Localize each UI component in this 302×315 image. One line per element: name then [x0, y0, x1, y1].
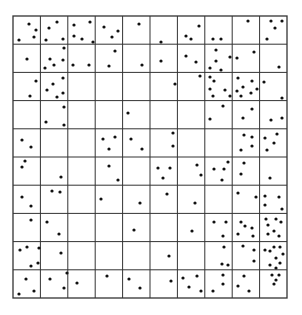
point-dot [239, 94, 242, 97]
point-dot [272, 141, 275, 144]
point-dot [241, 244, 244, 247]
point-dot [43, 66, 46, 69]
point-dot [252, 248, 255, 251]
point-dot [236, 76, 239, 79]
point-dot [132, 228, 135, 231]
point-dot [187, 285, 190, 288]
point-dot [252, 50, 255, 53]
point-dot [269, 118, 272, 121]
point-dot [23, 159, 26, 162]
point-dot [45, 88, 48, 91]
point-dot [58, 190, 61, 193]
point-dot [140, 147, 143, 150]
point-dot [249, 91, 252, 94]
point-dot [247, 289, 250, 292]
point-dot [116, 29, 119, 32]
point-dot [18, 248, 21, 251]
point-dot [272, 229, 275, 232]
point-dot [59, 251, 62, 254]
point-dot [17, 292, 20, 295]
point-dot [91, 40, 94, 43]
point-dot [265, 148, 268, 151]
point-dot [165, 192, 168, 195]
point-dot [161, 176, 164, 179]
point-dot [275, 132, 278, 135]
point-dot [189, 37, 192, 40]
point-dot [44, 120, 47, 123]
point-dot [274, 278, 277, 281]
point-dot [221, 282, 224, 285]
point-dot [252, 259, 255, 262]
point-dot [61, 58, 64, 61]
point-dot [48, 277, 51, 280]
point-dot [48, 57, 51, 60]
point-dot [270, 273, 273, 276]
point-dot [277, 234, 280, 237]
point-dot [263, 203, 266, 206]
point-dot [226, 263, 229, 266]
point-dot [221, 273, 224, 276]
point-dot [28, 94, 31, 97]
point-dot [113, 135, 116, 138]
point-dot [263, 194, 266, 197]
point-dot [57, 232, 60, 235]
point-dot [159, 40, 162, 43]
point-dot [242, 274, 245, 277]
point-dot [129, 137, 132, 140]
point-dot [184, 54, 187, 57]
point-dot [222, 167, 225, 170]
point-dot [101, 137, 104, 140]
point-dot [29, 145, 32, 148]
quadrat-grid-diagram [0, 0, 302, 315]
point-dot [279, 220, 282, 223]
point-dot [62, 46, 65, 49]
point-dot [113, 49, 116, 52]
point-dot [47, 26, 50, 29]
point-dot [171, 144, 174, 147]
point-dot [61, 37, 64, 40]
point-dot [277, 195, 280, 198]
point-dot [242, 133, 245, 136]
point-dot [138, 286, 141, 289]
point-dot [25, 245, 28, 248]
point-dot [181, 276, 184, 279]
point-dot [20, 138, 23, 141]
point-dot [263, 136, 266, 139]
point-dot [272, 245, 275, 248]
point-dot [116, 178, 119, 181]
point-dot [278, 261, 281, 264]
point-dot [51, 82, 54, 85]
point-dot [59, 175, 62, 178]
point-dot [280, 116, 283, 119]
point-dot [212, 79, 215, 82]
point-dot [195, 274, 198, 277]
point-dot [268, 263, 271, 266]
point-dot [107, 164, 110, 167]
point-dot [208, 75, 211, 78]
point-dot [208, 87, 211, 90]
point-dot [88, 20, 91, 23]
point-dot [264, 217, 267, 220]
point-dot [127, 277, 130, 280]
point-dot [195, 163, 198, 166]
point-dot [169, 279, 172, 282]
point-dot [199, 289, 202, 292]
point-dot [105, 274, 108, 277]
point-dot [235, 89, 238, 92]
point-dot [272, 282, 275, 285]
point-dot [75, 281, 78, 284]
point-dot [273, 26, 276, 29]
point-dot [29, 204, 32, 207]
point-dot [241, 85, 244, 88]
point-dot [32, 289, 35, 292]
point-dot [246, 19, 249, 22]
point-dot [239, 220, 242, 223]
point-dot [193, 201, 196, 204]
point-dot [126, 111, 129, 114]
point-dot [199, 173, 202, 176]
point-dot [65, 271, 68, 274]
point-dot [241, 116, 244, 119]
point-dot [50, 189, 53, 192]
point-dot [140, 63, 143, 66]
point-dot [266, 223, 269, 226]
